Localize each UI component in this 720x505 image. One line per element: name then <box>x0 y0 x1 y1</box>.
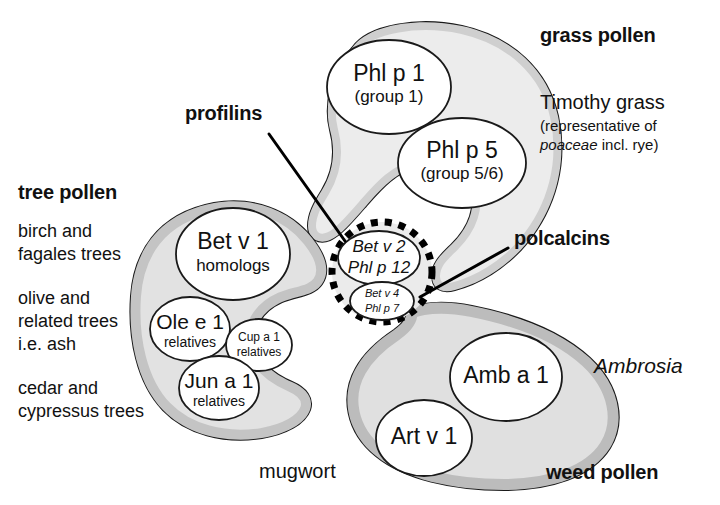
label-incl-rye: incl. rye) <box>598 136 659 153</box>
label-tree-desc-2c: i.e. ash <box>18 335 76 354</box>
node-label-phl-p-1: Phl p 1 <box>339 62 439 86</box>
node-label-art-v-1: Art v 1 <box>369 425 479 449</box>
node-sublabel-cup-a-1: relatives <box>219 346 299 358</box>
node-label-phl-p-12: Phl p 12 <box>334 259 424 277</box>
node-label-bet-v-2: Bet v 2 <box>334 238 424 256</box>
label-polcalcins: polcalcins <box>514 228 610 249</box>
label-tree-desc-2b: related trees <box>18 312 118 331</box>
node-sublabel-phl-p-5: (group 5/6) <box>402 165 522 183</box>
label-timothy-sub-2: poaceae incl. rye) <box>540 137 658 153</box>
node-label-amb-a-1: Amb a 1 <box>446 364 566 388</box>
label-poaceae: poaceae <box>540 136 598 153</box>
label-profilins: profilins <box>185 103 262 124</box>
label-mugwort: mugwort <box>259 461 336 482</box>
node-label-jun-a-1: Jun a 1 <box>174 370 264 392</box>
node-bet-v-1 <box>176 208 290 300</box>
node-label-cup-a-1: Cup a 1 <box>219 331 299 343</box>
node-sublabel-jun-a-1: relatives <box>174 394 264 409</box>
label-ambrosia: Ambrosia <box>594 355 683 377</box>
label-tree-desc-3b: cypressus trees <box>18 402 144 421</box>
node-sublabel-bet-v-1: homologs <box>183 257 283 275</box>
node-sublabel-phl-p-1: (group 1) <box>339 88 439 106</box>
node-label-ole-e-1: Ole e 1 <box>145 311 235 333</box>
label-timothy-grass: Timothy grass <box>540 92 665 113</box>
label-weed-pollen: weed pollen <box>546 462 658 483</box>
label-tree-pollen: tree pollen <box>18 182 117 203</box>
node-label-phl-p-7: Phl p 7 <box>342 303 422 314</box>
node-label-bet-v-1: Bet v 1 <box>183 230 283 254</box>
label-timothy-sub-1: (representative of <box>540 118 657 134</box>
label-tree-desc-1b: fagales trees <box>18 245 121 264</box>
diagram-canvas: grass pollen Timothy grass (representati… <box>0 0 720 505</box>
label-grass-pollen: grass pollen <box>540 25 655 46</box>
node-label-phl-p-5: Phl p 5 <box>412 139 512 163</box>
label-tree-desc-1a: birch and <box>18 222 92 241</box>
node-label-bet-v-4: Bet v 4 <box>342 288 422 299</box>
label-tree-desc-3a: cedar and <box>18 379 98 398</box>
label-tree-desc-2a: olive and <box>18 289 90 308</box>
node-phl-p-5 <box>398 118 526 208</box>
